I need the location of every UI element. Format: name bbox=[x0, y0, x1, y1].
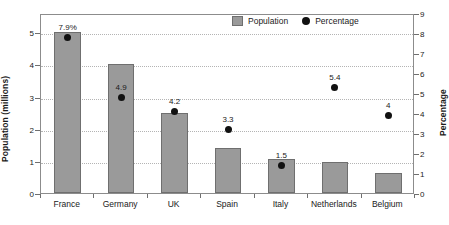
x-tick-label-italy: Italy bbox=[273, 199, 289, 209]
y-tick-label-right: 9 bbox=[420, 10, 446, 19]
bar-uk bbox=[161, 113, 188, 193]
point-label-netherlands: 5.4 bbox=[329, 73, 340, 82]
data-point-belgium bbox=[385, 112, 392, 119]
x-tick-mark bbox=[147, 194, 148, 198]
y-tick-mark-right bbox=[414, 14, 419, 15]
y-tick-mark-right bbox=[414, 54, 419, 55]
y-tick-label-right: 3 bbox=[420, 130, 446, 139]
bar-swatch-icon bbox=[232, 16, 243, 26]
legend-label-percentage: Percentage bbox=[315, 16, 358, 26]
y-tick-label-right: 0 bbox=[420, 190, 446, 199]
x-tick-mark bbox=[307, 194, 308, 198]
x-tick-mark bbox=[40, 194, 41, 198]
data-point-france bbox=[64, 34, 71, 41]
bar-france bbox=[54, 32, 81, 193]
gridline bbox=[41, 99, 413, 100]
y-tick-label-left: 3 bbox=[8, 93, 34, 102]
y-tick-label-right: 1 bbox=[420, 170, 446, 179]
data-point-uk bbox=[171, 108, 178, 115]
bar-netherlands bbox=[322, 162, 349, 193]
y-tick-label-left: 2 bbox=[8, 125, 34, 134]
legend: Population Percentage bbox=[232, 16, 359, 26]
y-tick-mark-right bbox=[414, 114, 419, 115]
y-tick-label-right: 2 bbox=[420, 150, 446, 159]
x-tick-label-spain: Spain bbox=[216, 199, 238, 209]
x-tick-mark bbox=[93, 194, 94, 198]
point-label-belgium: 4 bbox=[386, 101, 390, 110]
y-tick-mark-right bbox=[414, 154, 419, 155]
gridline bbox=[41, 34, 413, 35]
x-tick-label-uk: UK bbox=[168, 199, 180, 209]
y-tick-label-right: 4 bbox=[420, 110, 446, 119]
point-label-france: 7.9% bbox=[59, 23, 77, 32]
x-tick-mark bbox=[254, 194, 255, 198]
y-tick-label-left: 0 bbox=[8, 190, 34, 199]
x-tick-label-germany: Germany bbox=[103, 199, 138, 209]
plot-area: 7.9%4.94.23.31.55.44 bbox=[40, 14, 414, 194]
legend-item-population: Population bbox=[232, 16, 288, 26]
data-point-spain bbox=[225, 126, 232, 133]
y-tick-label-left: 5 bbox=[8, 29, 34, 38]
y-tick-mark-right bbox=[414, 94, 419, 95]
x-tick-label-netherlands: Netherlands bbox=[311, 199, 357, 209]
data-point-netherlands bbox=[331, 84, 338, 91]
y-tick-mark-right bbox=[414, 74, 419, 75]
point-label-italy: 1.5 bbox=[276, 151, 287, 160]
point-label-germany: 4.9 bbox=[116, 83, 127, 92]
x-tick-mark bbox=[200, 194, 201, 198]
gridline bbox=[41, 66, 413, 67]
point-label-uk: 4.2 bbox=[169, 97, 180, 106]
bar-spain bbox=[215, 148, 242, 193]
x-tick-mark bbox=[414, 194, 415, 198]
legend-item-percentage: Percentage bbox=[302, 16, 358, 26]
y-tick-mark-right bbox=[414, 34, 419, 35]
x-tick-mark bbox=[361, 194, 362, 198]
data-point-germany bbox=[118, 94, 125, 101]
y-tick-label-right: 8 bbox=[420, 30, 446, 39]
y-tick-label-left: 4 bbox=[8, 61, 34, 70]
chart-container: Population (millions) Percentage 012345 … bbox=[0, 0, 449, 225]
y-tick-mark-right bbox=[414, 174, 419, 175]
data-point-italy bbox=[278, 162, 285, 169]
y-tick-mark-right bbox=[414, 134, 419, 135]
y-tick-label-left: 1 bbox=[8, 157, 34, 166]
dot-swatch-icon bbox=[302, 17, 310, 25]
x-tick-label-belgium: Belgium bbox=[372, 199, 403, 209]
point-label-spain: 3.3 bbox=[222, 115, 233, 124]
bar-belgium bbox=[375, 173, 402, 193]
y-tick-label-right: 7 bbox=[420, 50, 446, 59]
x-tick-label-france: France bbox=[53, 199, 79, 209]
legend-label-population: Population bbox=[248, 16, 288, 26]
y-tick-label-right: 6 bbox=[420, 70, 446, 79]
y-tick-label-right: 5 bbox=[420, 90, 446, 99]
